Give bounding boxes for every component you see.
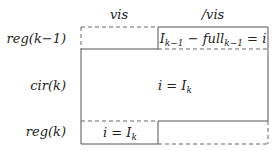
row-label-cir-k: cir(k) <box>30 78 66 93</box>
row-label-reg-k: reg(k) <box>26 124 66 139</box>
column-header-not-vis: /vis <box>200 7 225 22</box>
row-label-reg-k-minus-1: reg(k−1) <box>7 31 66 46</box>
cell-cir-k: i = Ik <box>158 78 192 95</box>
cell-reg-k-minus-1-notvis: Ik−1 − fullk−1 = i <box>159 31 267 48</box>
visibility-diagram: vis /vis reg(k−1) cir(k) reg(k) Ik−1 − f… <box>0 0 280 151</box>
cell-reg-k-vis: i = Ik <box>103 125 137 142</box>
column-header-vis: vis <box>110 7 129 22</box>
